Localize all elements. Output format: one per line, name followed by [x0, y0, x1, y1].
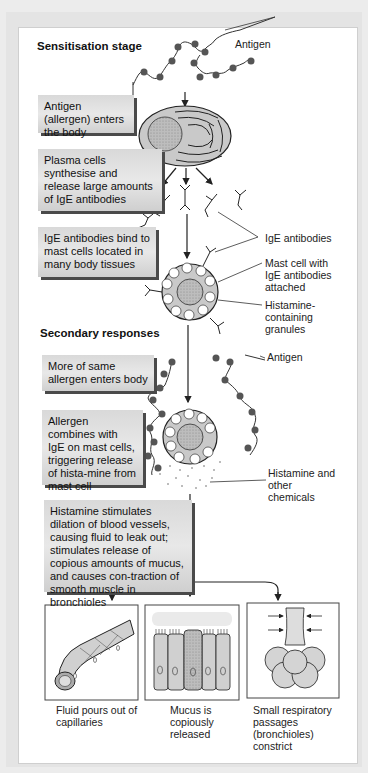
secondary-responses-title: Secondary responses — [40, 327, 160, 339]
sensitisation-stage-title: Sensitisation stage — [37, 40, 142, 52]
ige-antibodies-label: IgE antibodies — [265, 232, 332, 244]
box-histamine-effects: Histamine stimulates dilation of blood v… — [44, 500, 192, 592]
antigen-label-top: Antigen — [235, 38, 271, 50]
box-more-allergen: More of same allergen enters body — [42, 355, 154, 391]
box-allergen-combines: Allergen combines with IgE on mast cells… — [42, 410, 143, 485]
box-plasma-cells: Plasma cells synthesise and release larg… — [38, 149, 162, 211]
outcome-caption-mucus: Mucus is copiously released — [170, 704, 222, 740]
box-ige-bind: IgE antibodies bind to mast cells locate… — [38, 227, 156, 277]
box-antigen-enters: Antigen (allergen) enters the body — [38, 95, 134, 133]
bronchiole-icon — [247, 603, 339, 698]
mast-cell-sensitisation — [145, 246, 224, 334]
histamine-chemicals-label: Histamine and other chemicals — [268, 467, 338, 503]
outcome-caption-capillaries: Fluid pours out of capillaries — [56, 704, 138, 728]
capillary-icon — [45, 605, 138, 700]
granules-label: Histamine-containing granules — [265, 299, 335, 335]
histamine-particles — [159, 461, 221, 489]
mast-cell-secondary — [163, 409, 217, 464]
outcome-caption-bronchioles: Small respiratory passages (bronchioles)… — [253, 704, 343, 752]
mast-cell-label: Mast cell with IgE antibodies attached — [265, 257, 345, 293]
antigen-label-secondary: Antigen — [267, 351, 303, 363]
mucus-cells-icon — [145, 605, 239, 700]
